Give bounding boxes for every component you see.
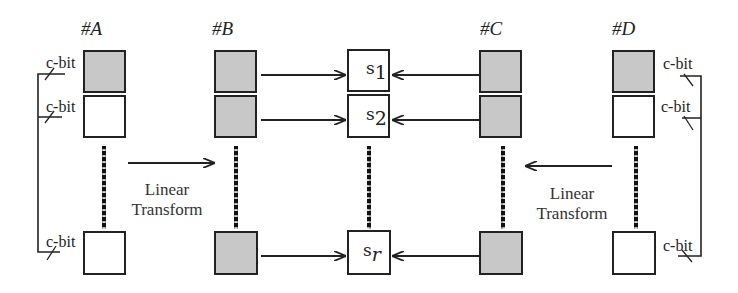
dotted-column-d (634, 146, 638, 229)
column-b (215, 51, 257, 274)
dotted-column-s (367, 146, 371, 229)
cell-a-1 (84, 51, 125, 92)
cell-c-2 (480, 96, 521, 137)
cbit-label-a-1: c-bit (46, 54, 75, 72)
column-label-b: #B (212, 18, 233, 40)
dotted-column-b (234, 146, 238, 229)
cbit-label-d-2: c-bit (661, 98, 690, 116)
column-c (480, 51, 522, 274)
column-label-a: #A (81, 18, 102, 40)
cell-d-2 (613, 96, 654, 137)
sr-label: sr (363, 240, 381, 265)
diagram-canvas: #A #B #C #D s1 s2 sr c-bit c-bit c-bit c… (0, 0, 738, 293)
linear-transform-label-right: Linear Transform (522, 184, 622, 224)
cell-b-1 (215, 51, 256, 92)
column-label-c: #C (480, 18, 502, 40)
cbit-label-a-2: c-bit (46, 98, 75, 116)
s2-label: s2 (366, 104, 387, 129)
linear-transform-label-left: Linear Transform (117, 180, 217, 220)
cell-b-r (215, 232, 257, 274)
cell-b-2 (215, 96, 256, 137)
dotted-column-c (501, 146, 505, 229)
cell-d-r (613, 232, 655, 274)
arrows-c-to-s (393, 75, 480, 256)
cell-c-1 (480, 51, 521, 92)
cell-a-r (84, 232, 125, 274)
cbit-label-a-r: c-bit (46, 233, 75, 251)
cell-a-2 (84, 96, 125, 137)
cbit-label-d-r: c-bit (663, 237, 692, 255)
dotted-column-a (102, 146, 106, 229)
arrows-b-to-s (261, 75, 345, 256)
cell-d-1 (613, 51, 654, 92)
cell-c-r (480, 232, 522, 274)
cbit-label-d-1: c-bit (663, 55, 692, 73)
column-label-d: #D (612, 18, 635, 40)
s1-label: s1 (366, 58, 387, 83)
